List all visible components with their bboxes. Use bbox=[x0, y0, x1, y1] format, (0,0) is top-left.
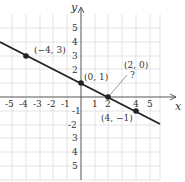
svg-text:-5: -5 bbox=[5, 99, 14, 109]
coordinate-graph: y x -5 -4 -3 -2 -1 1 2 4 5 5 4 3 2 -1 -2… bbox=[0, 0, 185, 182]
svg-text:4: 4 bbox=[72, 37, 78, 47]
point-2-0 bbox=[105, 94, 111, 100]
svg-text:4: 4 bbox=[72, 147, 78, 157]
svg-text:-4: -4 bbox=[19, 99, 28, 109]
point-label-4-neg1: (4, −1) bbox=[101, 113, 133, 123]
svg-text:5: 5 bbox=[72, 23, 78, 33]
svg-text:-3: -3 bbox=[33, 99, 42, 109]
svg-text:5: 5 bbox=[72, 161, 78, 171]
point-label-2-0: (2, 0) bbox=[124, 60, 148, 70]
svg-text:5: 5 bbox=[147, 99, 153, 109]
svg-text:3: 3 bbox=[72, 133, 78, 143]
svg-text:2: 2 bbox=[105, 99, 111, 109]
svg-text:-1: -1 bbox=[61, 99, 70, 109]
point-neg4-3 bbox=[23, 53, 29, 59]
y-axis-label: y bbox=[70, 1, 78, 14]
svg-text:4: 4 bbox=[133, 99, 139, 109]
point-4-neg1 bbox=[133, 108, 139, 114]
svg-text:-2: -2 bbox=[68, 120, 77, 130]
point-0-1 bbox=[78, 80, 84, 86]
svg-text:-1: -1 bbox=[72, 106, 81, 116]
point-label-0-1: (0, 1) bbox=[84, 72, 108, 82]
x-axis-label: x bbox=[175, 100, 182, 113]
annotation-leader-line bbox=[110, 75, 127, 95]
point-label-neg4-3: (−4, 3) bbox=[34, 45, 66, 55]
svg-text:3: 3 bbox=[72, 51, 78, 61]
svg-text:-2: -2 bbox=[47, 99, 56, 109]
svg-text:2: 2 bbox=[72, 65, 78, 75]
annotation-question: ? bbox=[130, 70, 135, 80]
svg-text:1: 1 bbox=[92, 99, 98, 109]
